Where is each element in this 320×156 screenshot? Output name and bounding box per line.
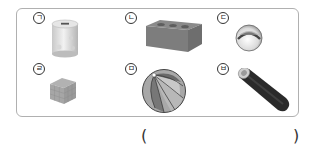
brick-icon: [140, 18, 204, 56]
cylinder-bank-icon: [50, 18, 80, 58]
item-label-4: ㄹ: [33, 63, 45, 75]
item-label-1: ㄱ: [33, 12, 45, 24]
item-label-6: ㅂ: [217, 63, 229, 75]
item-label-5: ㅁ: [125, 63, 137, 75]
item-label-2: ㄴ: [125, 12, 137, 24]
answer-field[interactable]: [152, 128, 292, 146]
answer-close-paren: ): [293, 126, 299, 145]
cube-puzzle-icon: [48, 76, 78, 106]
beach-ball-icon: [141, 68, 187, 114]
answer-open-paren: (: [141, 126, 147, 145]
ball-icon: [235, 24, 263, 52]
item-label-3: ㄷ: [217, 12, 229, 24]
cylinder-tube-icon: [236, 68, 292, 114]
